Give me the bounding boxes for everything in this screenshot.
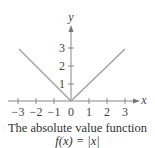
y-tick-label: 1: [59, 77, 65, 91]
x-tick-label: 1: [86, 105, 92, 119]
chart-caption-formula: f(x) = |x|: [0, 135, 155, 148]
y-tick-label: 3: [59, 41, 65, 55]
absolute-value-line: [19, 49, 125, 101]
x-tick-label: −2: [30, 105, 43, 119]
x-tick-label: −3: [12, 105, 25, 119]
x-tick-label: 0: [68, 105, 74, 119]
y-tick-label: 2: [59, 59, 65, 73]
x-axis-label: x: [140, 93, 147, 107]
y-axis-label: y: [67, 10, 74, 24]
y-axis-arrow-icon: [69, 25, 74, 32]
x-axis-arrow-icon: [133, 99, 140, 104]
x-tick-label: 3: [122, 105, 128, 119]
x-tick-label: −1: [48, 105, 61, 119]
x-tick-label: 2: [104, 105, 110, 119]
